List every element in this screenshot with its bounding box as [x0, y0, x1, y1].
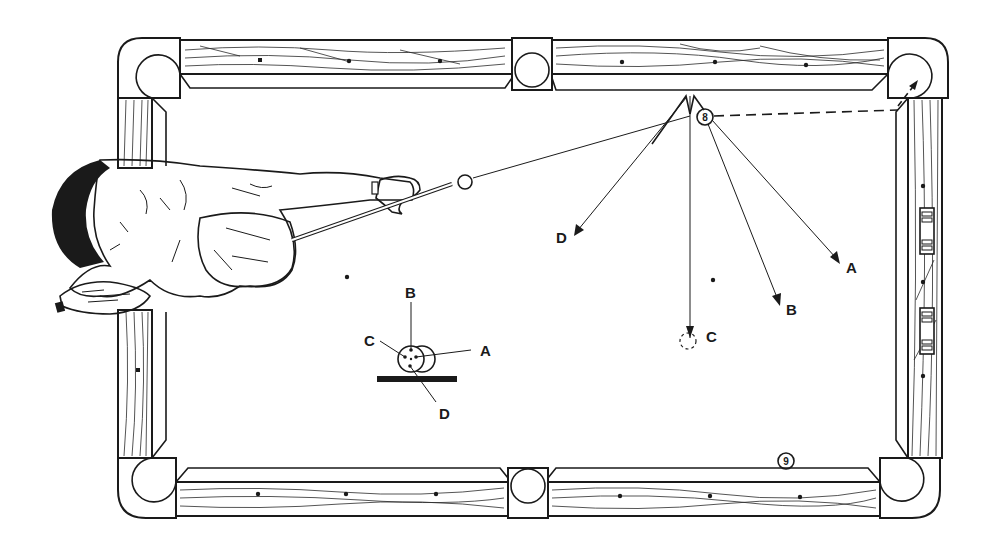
cushions	[152, 74, 908, 482]
wood-rails	[118, 40, 942, 516]
deflection-paths	[574, 98, 840, 338]
label-path-c: C	[706, 328, 717, 345]
contact-geometry	[652, 96, 704, 338]
inset-label-d: D	[439, 405, 450, 422]
cushion-top-left	[180, 74, 512, 88]
cue-tip-inset	[377, 302, 471, 402]
corner-bottom-left	[118, 458, 176, 518]
object-ball-8: 8	[697, 109, 713, 125]
label-path-a: A	[846, 259, 857, 276]
inset-label-b: B	[405, 284, 416, 301]
ghost-ball-c	[680, 333, 696, 349]
svg-text:8: 8	[702, 112, 708, 123]
svg-text:9: 9	[783, 456, 789, 467]
cue-butt-cap	[55, 301, 65, 313]
cushion-left-upper	[152, 98, 166, 166]
side-block-top	[512, 38, 552, 90]
player-figure	[52, 160, 420, 314]
wristwatch-icon	[372, 182, 378, 194]
pockets	[132, 53, 932, 503]
cue-stick	[55, 184, 452, 313]
rail-bottom-right	[548, 482, 880, 516]
cushion-top-right	[552, 74, 888, 90]
cushion-left-lower	[152, 312, 166, 458]
inset-label-a: A	[480, 342, 491, 359]
score-bead-lower	[920, 308, 934, 354]
head-spot	[345, 275, 349, 279]
ball-9: 9	[778, 453, 794, 469]
pool-table-diagram: 8 9 D C B A	[0, 0, 995, 546]
foot-spot	[711, 278, 715, 282]
table-frame	[118, 38, 948, 518]
object-ball-path-dashed	[714, 110, 898, 116]
label-path-d: D	[556, 229, 567, 246]
cue-ball	[458, 175, 472, 189]
corner-top-right	[888, 38, 948, 98]
inset-label-c: C	[364, 332, 375, 349]
label-path-b: B	[786, 301, 797, 318]
corner-bottom-right	[880, 458, 940, 518]
score-bead-upper	[920, 208, 934, 254]
cushion-bottom-right	[548, 468, 880, 482]
inset-table-bar	[377, 376, 457, 382]
cushion-right	[896, 98, 908, 458]
cue-ball-path	[473, 116, 690, 178]
corner-top-left	[118, 38, 180, 98]
cushion-bottom-left	[176, 468, 508, 482]
